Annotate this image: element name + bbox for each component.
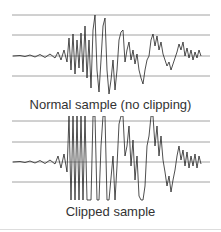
normal-waveform-panel: Normal sample (no clipping) [0,0,221,116]
normal-waveform-plot [0,0,221,100]
clipped-waveform-panel: Clipped sample [0,116,221,232]
clipped-sample-caption: Clipped sample [0,204,221,219]
bottom-divider [0,229,221,230]
normal-sample-caption: Normal sample (no clipping) [0,97,221,112]
clipped-waveform-plot [0,116,221,206]
